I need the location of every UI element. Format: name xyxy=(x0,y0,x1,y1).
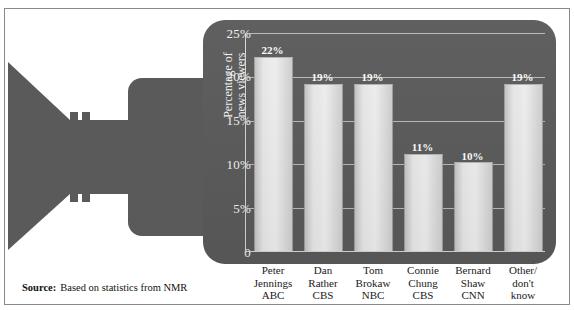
bar-value-tom-brokaw: 19% xyxy=(345,72,401,83)
bar-other-dont-know xyxy=(504,84,543,251)
clipped-body-text xyxy=(60,0,530,4)
x-category-connie-chung: Connie Chung CBS xyxy=(395,264,451,302)
bar-value-bernard-shaw: 10% xyxy=(445,151,501,162)
bar-value-connie-chung: 11% xyxy=(395,142,451,153)
x-category-line: Connie xyxy=(395,264,451,277)
x-category-line: Rather xyxy=(295,277,351,290)
bar-connie-chung xyxy=(404,154,443,251)
bar-value-dan-rather: 19% xyxy=(295,72,351,83)
x-category-line: Brokaw xyxy=(345,277,401,290)
x-category-line: Shaw xyxy=(445,277,501,290)
x-category-line: CBS xyxy=(395,289,451,302)
x-axis-category-labels: Peter Jennings ABC Dan Rather CBS Tom Br… xyxy=(245,264,555,306)
bar-value-other: 19% xyxy=(495,72,551,83)
x-category-line: Peter xyxy=(245,264,301,277)
x-category-dan-rather: Dan Rather CBS xyxy=(295,264,351,302)
y-axis-line xyxy=(245,33,246,252)
x-category-tom-brokaw: Tom Brokaw NBC xyxy=(345,264,401,302)
x-category-line: don't xyxy=(495,277,551,290)
x-category-peter-jennings: Peter Jennings ABC xyxy=(245,264,301,302)
x-category-line: Other/ xyxy=(495,264,551,277)
bar-dan-rather xyxy=(304,84,343,251)
x-axis-line xyxy=(245,251,545,252)
plot-area: 22% 19% 19% 11% 10% 19% xyxy=(245,33,545,252)
x-category-line: Jennings xyxy=(245,277,301,290)
source-note: Source:Based on statistics from NMR xyxy=(22,282,187,294)
x-category-line: Chung xyxy=(395,277,451,290)
x-category-line: CBS xyxy=(295,289,351,302)
x-category-line: ABC xyxy=(245,289,301,302)
news-anchor-viewership-figure: Percentage of news viewers 25% 20% 15% 1… xyxy=(0,0,574,310)
x-category-line: Bernard xyxy=(445,264,501,277)
megaphone-icon xyxy=(8,58,223,252)
bar-peter-jennings xyxy=(254,57,293,251)
bar-tom-brokaw xyxy=(354,84,393,251)
x-category-line: Tom xyxy=(345,264,401,277)
x-category-other-dont-know: Other/ don't know xyxy=(495,264,551,302)
x-category-line: CNN xyxy=(445,289,501,302)
x-category-bernard-shaw: Bernard Shaw CNN xyxy=(445,264,501,302)
x-category-line: NBC xyxy=(345,289,401,302)
gridline-25 xyxy=(245,33,545,34)
x-category-line: know xyxy=(495,289,551,302)
chart-panel: Percentage of news viewers 25% 20% 15% 1… xyxy=(203,20,556,264)
source-label: Source: xyxy=(22,282,56,293)
bar-bernard-shaw xyxy=(454,162,493,251)
bar-value-peter-jennings: 22% xyxy=(245,45,301,56)
x-category-line: Dan xyxy=(295,264,351,277)
source-text: Based on statistics from NMR xyxy=(60,282,187,293)
